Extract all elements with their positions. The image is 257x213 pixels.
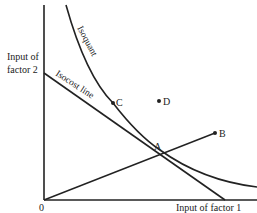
point-a-label: A	[154, 141, 162, 152]
point-c-dot	[111, 101, 115, 105]
isoquant-diagram: A B C D Isoquant Isocost line Input of f…	[0, 0, 257, 213]
isocost-line	[44, 73, 225, 200]
origin-label: 0	[39, 202, 44, 213]
point-c-label: C	[116, 97, 123, 108]
expansion-ray	[44, 133, 215, 200]
point-b-label: B	[219, 128, 226, 139]
point-d-dot	[157, 99, 161, 103]
x-axis-label: Input of factor 1	[176, 202, 241, 213]
point-d-label: D	[163, 96, 170, 107]
isoquant-label: Isoquant	[75, 24, 99, 58]
point-b-dot	[213, 131, 217, 135]
y-axis-label-line1: Input of	[7, 51, 40, 62]
y-axis-label-line2: factor 2	[7, 64, 38, 75]
isoquant-curve	[66, 5, 257, 187]
